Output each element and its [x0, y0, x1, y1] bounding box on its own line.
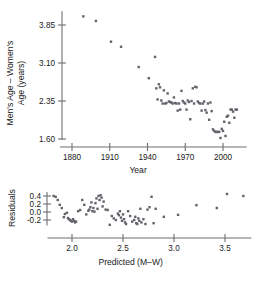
data-point [226, 193, 228, 195]
x-axis-tick-label: 3.0 [168, 244, 180, 253]
data-point [59, 204, 61, 206]
data-point [83, 204, 85, 206]
data-point [210, 110, 212, 112]
data-point [61, 207, 63, 209]
data-point [94, 202, 96, 204]
y-axis-tick-label: -0.2 [27, 216, 42, 225]
x-axis-tick-label: 2000 [214, 153, 233, 162]
data-point [175, 102, 177, 104]
data-point [96, 208, 98, 210]
data-point [122, 213, 124, 215]
data-point [137, 66, 139, 68]
x-axis-tick-label: 1970 [176, 153, 195, 162]
data-point [118, 214, 120, 216]
data-point [148, 206, 150, 208]
data-point [101, 205, 103, 207]
data-point [99, 194, 101, 196]
data-point [184, 102, 186, 104]
data-point [129, 215, 131, 217]
data-point [120, 216, 122, 218]
data-point [127, 210, 129, 212]
data-point [179, 108, 181, 110]
data-point [185, 108, 187, 110]
figure-container: 3.853.102.351.6018801910194019702000Year… [0, 0, 253, 295]
data-point [209, 101, 211, 103]
data-point [93, 210, 95, 212]
data-point [223, 121, 225, 123]
data-point [120, 46, 122, 48]
top-panel-age-gap-scatter: 3.853.102.351.6018801910194019702000Year… [0, 0, 253, 175]
data-point [79, 209, 81, 211]
data-point [131, 220, 133, 222]
data-point [63, 216, 65, 218]
data-point [115, 219, 117, 221]
data-point [208, 119, 210, 121]
data-point [140, 221, 142, 223]
x-axis-tick-label: 2.0 [66, 244, 78, 253]
data-point [158, 83, 160, 85]
data-point [150, 196, 152, 198]
y-axis-tick-label: 1.60 [39, 135, 55, 144]
data-point [88, 208, 90, 210]
data-point [100, 196, 102, 198]
data-point [195, 204, 197, 206]
data-point [204, 109, 206, 111]
data-point [180, 90, 182, 92]
data-point [133, 219, 135, 221]
data-point [95, 20, 97, 22]
x-axis-tick-label: 1880 [63, 153, 82, 162]
data-point [144, 223, 146, 225]
x-axis-tick-label: 1940 [138, 153, 157, 162]
x-axis-tick-label: 2.5 [117, 244, 129, 253]
x-axis-tick-label: 3.5 [219, 244, 231, 253]
data-point [171, 102, 173, 104]
data-point [75, 220, 77, 222]
data-point [207, 102, 209, 104]
x-axis-tick-label: 1910 [101, 153, 120, 162]
data-point [195, 86, 197, 88]
data-point [216, 207, 218, 209]
data-point [242, 195, 244, 197]
data-point [233, 117, 235, 119]
data-point [163, 89, 165, 91]
data-point [92, 207, 94, 209]
data-point [178, 102, 180, 104]
data-point [203, 100, 205, 102]
data-point [109, 224, 111, 226]
data-point [200, 109, 202, 111]
data-point [139, 208, 141, 210]
data-point [95, 197, 97, 199]
data-point [224, 135, 226, 137]
data-point [81, 199, 83, 201]
data-point [205, 111, 207, 113]
data-point [98, 199, 100, 201]
data-point [159, 86, 161, 88]
data-point [166, 92, 168, 94]
data-point [188, 101, 190, 103]
x-axis-label: Year [129, 165, 147, 175]
data-point [102, 200, 104, 202]
data-point [189, 118, 191, 120]
data-point [89, 206, 91, 208]
bottom-panel-residual-scatter: 0.40.20.0-0.22.02.53.03.5Predicted (M–W)… [0, 175, 253, 295]
data-point [82, 15, 84, 17]
data-point [134, 216, 136, 218]
data-point [142, 218, 144, 220]
data-point [199, 102, 201, 104]
data-point [90, 201, 92, 203]
data-point [232, 110, 234, 112]
data-point [66, 212, 68, 214]
data-point [125, 223, 127, 225]
data-point [156, 98, 158, 100]
data-point [165, 102, 167, 104]
data-point [85, 213, 87, 215]
data-point [173, 96, 175, 98]
data-point [219, 137, 221, 139]
data-point [123, 218, 125, 220]
data-point [228, 122, 230, 124]
data-point [136, 223, 138, 225]
data-point [163, 216, 165, 218]
data-point [192, 87, 194, 89]
data-point [138, 220, 140, 222]
data-point [57, 199, 59, 201]
